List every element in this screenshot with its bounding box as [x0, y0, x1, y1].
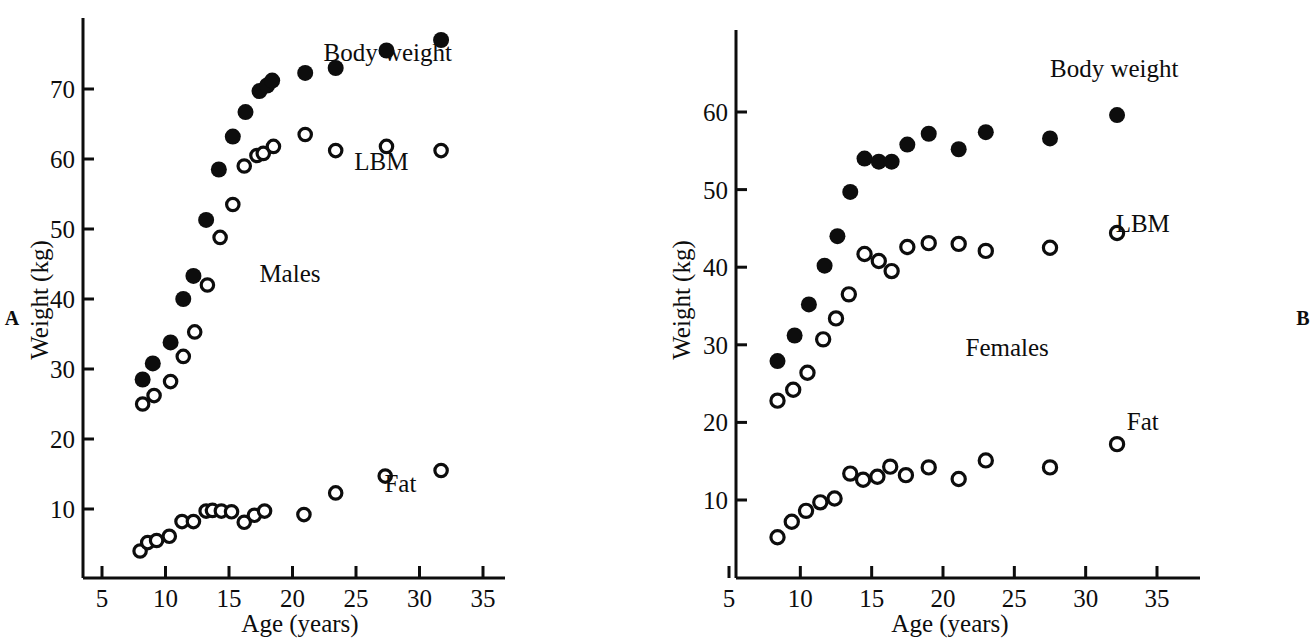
- y-axis-tick-label: 60: [703, 99, 728, 126]
- series-label-fat: Fat: [384, 470, 416, 497]
- data-point-body-weight: [884, 154, 900, 170]
- data-point-fat: [785, 515, 798, 528]
- data-point-lbm: [177, 350, 189, 362]
- data-point-lbm: [922, 237, 935, 250]
- data-point-lbm: [787, 383, 800, 396]
- data-point-body-weight: [238, 104, 254, 120]
- data-point-lbm: [214, 231, 226, 243]
- data-point-lbm: [435, 144, 447, 156]
- x-axis-tick-label: 5: [723, 585, 736, 612]
- x-axis-tick-label: 25: [344, 585, 369, 612]
- data-point-body-weight: [1042, 130, 1058, 146]
- data-point-lbm: [1043, 241, 1056, 254]
- scatter-plot-males: 102030405060705101520253035Age (years)We…: [0, 0, 656, 640]
- data-point-fat: [979, 454, 992, 467]
- data-point-body-weight: [978, 124, 994, 140]
- data-point-fat: [828, 492, 841, 505]
- x-axis-tick-label: 10: [788, 585, 813, 612]
- data-point-lbm: [299, 128, 311, 140]
- x-axis-title: Age (years): [891, 610, 1008, 638]
- data-point-fat: [1110, 438, 1123, 451]
- data-point-body-weight: [770, 353, 786, 369]
- x-axis-tick-label: 30: [407, 585, 432, 612]
- series-label-body-weight: Body weight: [1050, 55, 1179, 82]
- series-label-lbm: LBM: [354, 148, 408, 175]
- data-point-lbm: [817, 333, 830, 346]
- data-point-fat: [884, 460, 897, 473]
- data-point-body-weight: [842, 184, 858, 200]
- data-point-body-weight: [801, 296, 817, 312]
- data-point-body-weight: [951, 141, 967, 157]
- panel-b-females: 1020304050605101520253035Age (years)Weig…: [656, 0, 1313, 640]
- y-axis-tick-label: 40: [703, 254, 728, 281]
- y-axis-tick-label: 20: [703, 409, 728, 436]
- x-axis-tick-label: 15: [859, 585, 884, 612]
- data-point-fat: [258, 505, 270, 517]
- series-label-fat: Fat: [1127, 408, 1159, 435]
- data-point-fat: [799, 504, 812, 517]
- data-point-lbm: [979, 244, 992, 257]
- data-point-lbm: [136, 398, 148, 410]
- data-point-fat: [150, 534, 162, 546]
- data-point-body-weight: [817, 258, 833, 274]
- x-axis-tick-label: 10: [153, 585, 178, 612]
- y-axis-title: Weight (kg): [26, 240, 54, 359]
- data-point-fat: [1043, 461, 1056, 474]
- data-point-body-weight: [1109, 107, 1125, 123]
- data-point-fat: [922, 461, 935, 474]
- x-axis-tick-label: 30: [1073, 585, 1098, 612]
- x-axis-tick-label: 35: [471, 585, 496, 612]
- group-label-females: Females: [966, 334, 1049, 361]
- data-point-body-weight: [264, 73, 280, 89]
- data-point-lbm: [885, 264, 898, 277]
- y-axis-tick-label: 50: [50, 216, 75, 243]
- data-point-fat: [187, 515, 199, 527]
- y-axis-tick-label: 20: [50, 426, 75, 453]
- data-point-lbm: [329, 144, 341, 156]
- panel-letter-a: A: [5, 307, 20, 329]
- scatter-plot-females: 1020304050605101520253035Age (years)Weig…: [656, 0, 1313, 640]
- y-axis-tick-label: 30: [50, 356, 75, 383]
- y-axis-tick-label: 50: [703, 177, 728, 204]
- series-label-lbm: LBM: [1116, 210, 1170, 237]
- data-point-fat: [871, 470, 884, 483]
- x-axis-title: Age (years): [241, 610, 358, 638]
- y-axis-tick-label: 70: [50, 76, 75, 103]
- data-point-body-weight: [297, 65, 313, 81]
- data-point-lbm: [858, 247, 871, 260]
- x-axis-tick-label: 20: [280, 585, 305, 612]
- data-point-body-weight: [787, 327, 803, 343]
- panel-letter-b: B: [1296, 307, 1309, 329]
- x-axis-tick-label: 35: [1145, 585, 1170, 612]
- data-point-lbm: [842, 288, 855, 301]
- x-axis-tick-label: 20: [931, 585, 956, 612]
- data-point-fat: [298, 508, 310, 520]
- data-point-body-weight: [829, 228, 845, 244]
- series-label-body-weight: Body weight: [324, 39, 453, 66]
- data-point-body-weight: [225, 129, 241, 145]
- data-point-fat: [329, 487, 341, 499]
- data-point-fat: [814, 496, 827, 509]
- data-point-lbm: [901, 240, 914, 253]
- data-point-body-weight: [163, 334, 179, 350]
- y-axis-tick-label: 60: [50, 146, 75, 173]
- data-point-body-weight: [185, 268, 201, 284]
- y-axis-tick-label: 10: [703, 487, 728, 514]
- data-point-lbm: [771, 394, 784, 407]
- data-point-lbm: [267, 140, 279, 152]
- data-point-lbm: [829, 312, 842, 325]
- data-point-fat: [435, 464, 447, 476]
- data-point-body-weight: [198, 212, 214, 228]
- group-label-males: Males: [259, 260, 320, 287]
- data-point-fat: [225, 506, 237, 518]
- data-point-fat: [844, 467, 857, 480]
- data-point-body-weight: [135, 372, 151, 388]
- data-point-lbm: [164, 375, 176, 387]
- data-point-body-weight: [899, 137, 915, 153]
- data-point-lbm: [952, 237, 965, 250]
- data-point-lbm: [148, 389, 160, 401]
- data-point-fat: [899, 469, 912, 482]
- x-axis-tick-label: 15: [217, 585, 242, 612]
- data-point-lbm: [872, 254, 885, 267]
- y-axis-tick-label: 10: [50, 496, 75, 523]
